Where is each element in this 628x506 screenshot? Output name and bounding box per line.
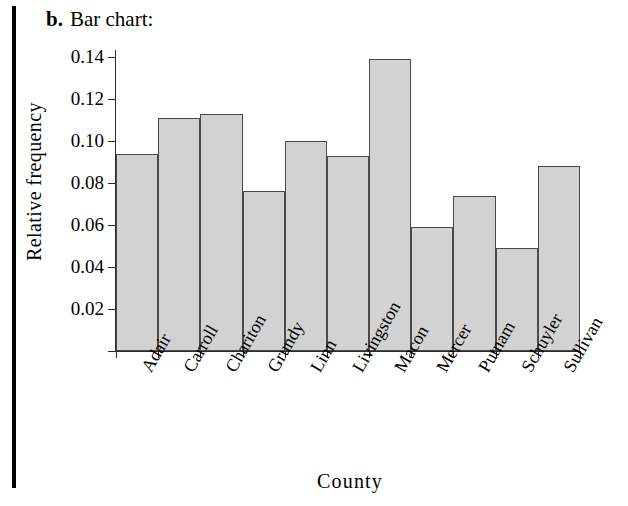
bar xyxy=(158,118,200,351)
x-axis-line xyxy=(108,351,580,352)
bar xyxy=(200,114,242,351)
bar xyxy=(116,154,158,351)
bar-chart: Relative frequency County 0.020.040.060.… xyxy=(0,0,628,506)
bars-layer xyxy=(0,0,628,506)
y-axis-line xyxy=(115,50,116,352)
x-tick-mark xyxy=(116,351,117,358)
bar xyxy=(327,156,369,351)
figure-page: b.Bar chart: Relative frequency County 0… xyxy=(0,0,628,506)
